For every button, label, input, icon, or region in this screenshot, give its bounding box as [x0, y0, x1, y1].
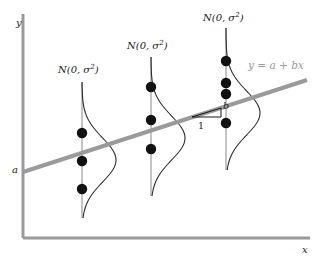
data-point — [221, 56, 231, 66]
data-point — [221, 89, 231, 99]
slope-run-label: 1 — [198, 121, 204, 131]
regression-line — [23, 80, 307, 172]
y-axis-label: y — [16, 18, 22, 28]
x-axis-label: x — [302, 245, 308, 255]
data-point — [77, 128, 87, 138]
regression-line-group — [23, 80, 307, 172]
intercept-label: a — [12, 165, 18, 175]
regression-normal-errors-figure: y x a y = a + bx 1 b N(0, σ2) N(0, σ2) N… — [0, 0, 329, 262]
regression-equation-label: y = a + bx — [248, 60, 304, 71]
data-points-group — [77, 56, 231, 194]
data-point — [146, 115, 156, 125]
slope-rise-label: b — [223, 101, 229, 111]
slope-triangle-group — [192, 108, 221, 117]
slope-triangle — [192, 108, 221, 117]
distribution-label-2: N(0, σ2) — [127, 40, 168, 51]
distribution-label-3: N(0, σ2) — [203, 12, 244, 23]
distribution-label-1: N(0, σ2) — [58, 64, 99, 75]
data-point — [221, 118, 231, 128]
data-point — [77, 156, 87, 166]
data-point — [77, 184, 87, 194]
data-point — [221, 78, 231, 88]
data-point — [146, 82, 156, 92]
data-point — [146, 144, 156, 154]
